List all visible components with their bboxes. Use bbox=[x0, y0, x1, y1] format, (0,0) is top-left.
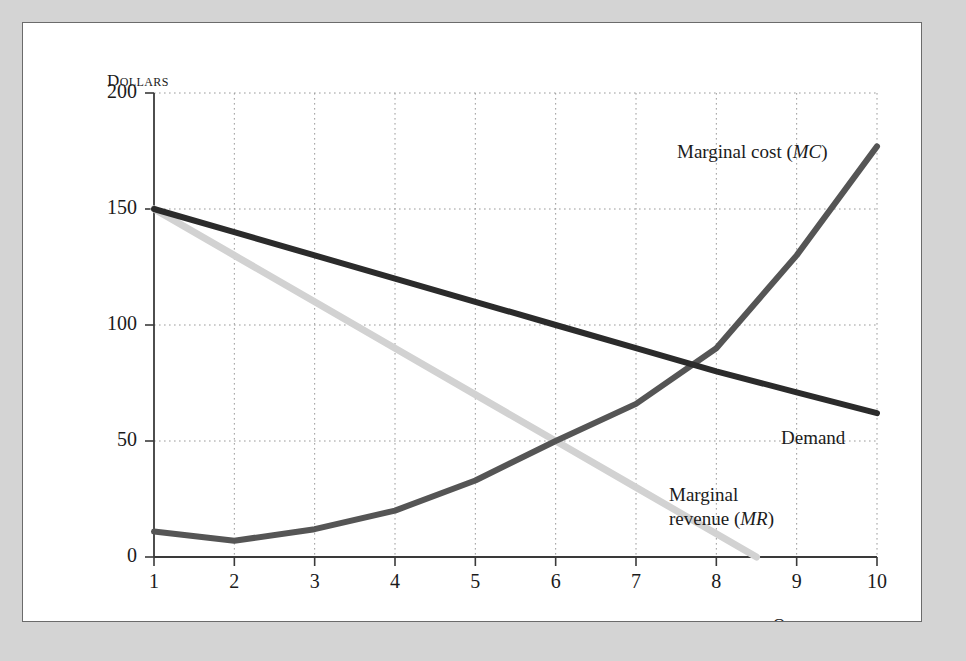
chart-plot-area bbox=[23, 23, 921, 621]
label-demand: Demand bbox=[781, 426, 845, 450]
label-mc-prefix: Marginal cost ( bbox=[677, 141, 793, 162]
label-mr-abbrev: MR bbox=[740, 508, 767, 529]
x-tick-label: 9 bbox=[777, 570, 817, 593]
x-tick-label: 7 bbox=[616, 570, 656, 593]
label-marginal-cost: Marginal cost (MC) bbox=[677, 140, 828, 164]
x-tick-label: 8 bbox=[696, 570, 736, 593]
x-tick-label: 3 bbox=[295, 570, 335, 593]
label-mr-line1: Marginal bbox=[669, 483, 774, 507]
y-tick-label: 50 bbox=[91, 428, 137, 451]
y-tick-label: 0 bbox=[91, 544, 137, 567]
label-marginal-revenue: Marginal revenue (MR) bbox=[669, 483, 774, 532]
figure-container: Dollars Quantity 050100150200 1234567891… bbox=[0, 0, 966, 661]
x-tick-label: 4 bbox=[375, 570, 415, 593]
y-tick-label: 150 bbox=[91, 196, 137, 219]
x-axis-title: Quantity bbox=[773, 615, 842, 622]
label-mc-abbrev: MC bbox=[793, 141, 822, 162]
y-tick-label: 100 bbox=[91, 312, 137, 335]
y-tick-label: 200 bbox=[91, 80, 137, 103]
label-mr-line2: revenue (MR) bbox=[669, 507, 774, 531]
label-mr-prefix: revenue ( bbox=[669, 508, 740, 529]
x-tick-label: 6 bbox=[536, 570, 576, 593]
x-tick-label: 10 bbox=[857, 570, 897, 593]
label-mr-suffix: ) bbox=[768, 508, 774, 529]
chart-panel: Dollars Quantity 050100150200 1234567891… bbox=[22, 22, 922, 622]
x-tick-label: 1 bbox=[134, 570, 174, 593]
x-tick-label: 2 bbox=[214, 570, 254, 593]
label-mc-suffix: ) bbox=[821, 141, 827, 162]
x-tick-label: 5 bbox=[455, 570, 495, 593]
curve-marginal-cost bbox=[154, 146, 877, 540]
curve-demand bbox=[154, 209, 877, 413]
